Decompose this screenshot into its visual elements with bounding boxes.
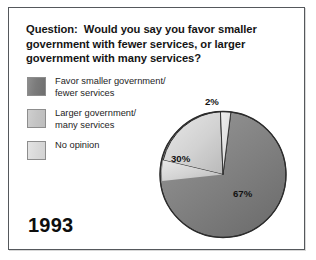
- page-title: Question: Would you say you favor smalle…: [26, 22, 284, 66]
- legend-label-line-1: No opinion: [55, 140, 99, 152]
- legend-swatch-icon-no-opinion: [27, 141, 46, 160]
- chart-card: Question: Would you say you favor smalle…: [8, 7, 305, 250]
- legend-label-line-2: many services: [55, 120, 136, 132]
- data-label-no-opinion: 2%: [205, 96, 219, 107]
- data-label-favor-smaller: 67%: [233, 188, 252, 199]
- legend-item-favor-smaller-government: Favor smaller government/ fewer services: [27, 76, 187, 99]
- legend-label-no-opinion: No opinion: [55, 140, 99, 152]
- legend-swatch-icon-larger-government: [27, 109, 46, 128]
- year-label: 1993: [28, 214, 73, 237]
- title-line-1: Question: Would you say you favor smalle…: [26, 22, 284, 37]
- legend-label-larger-government: Larger government/ many services: [55, 108, 136, 131]
- title-line-3: government with many services?: [26, 51, 284, 66]
- data-label-larger-government: 30%: [171, 153, 190, 164]
- legend-label-favor-smaller-government: Favor smaller government/ fewer services: [55, 76, 166, 99]
- legend-label-line-1: Favor smaller government/: [55, 76, 166, 88]
- title-line-2: government with fewer services, or large…: [26, 37, 284, 52]
- pie-chart: [158, 109, 288, 240]
- pie-chart-svg: [158, 109, 288, 240]
- legend-label-line-1: Larger government/: [55, 108, 136, 120]
- legend-swatch-icon-favor-smaller-government: [27, 77, 46, 96]
- legend-label-line-2: fewer services: [55, 88, 166, 100]
